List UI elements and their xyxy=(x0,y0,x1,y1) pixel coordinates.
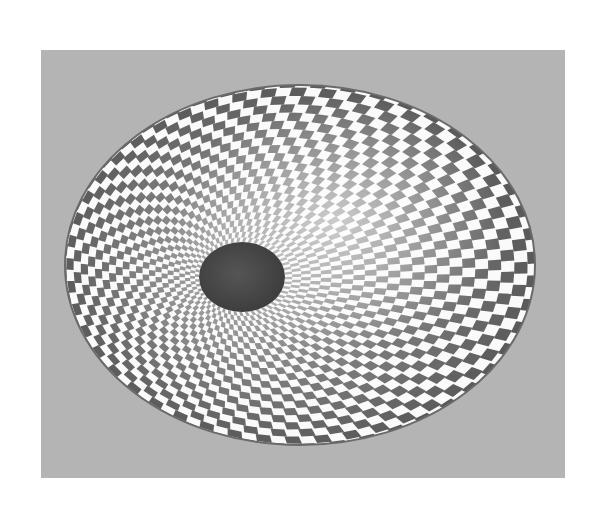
bowl-center xyxy=(199,242,285,312)
bowl-photo xyxy=(0,0,605,514)
